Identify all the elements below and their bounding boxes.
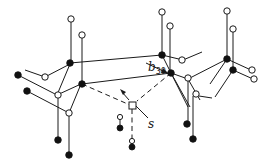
filled-atom	[67, 60, 74, 67]
filled-atom	[190, 136, 197, 143]
open-atom	[249, 67, 255, 73]
site-arrow	[120, 89, 129, 100]
open-atom	[66, 110, 72, 116]
open-atom	[179, 57, 185, 63]
filled-atom	[184, 121, 191, 128]
filled-atom	[66, 152, 73, 159]
filled-atom	[117, 125, 123, 131]
filled-atom	[129, 144, 135, 150]
filled-atom	[55, 137, 62, 144]
filled-atom	[79, 81, 86, 88]
filled-atom	[15, 72, 22, 79]
filled-atoms	[15, 52, 237, 159]
open-atom	[230, 26, 236, 32]
open-atom	[117, 114, 122, 119]
filled-atom	[24, 88, 31, 95]
open-atom	[224, 8, 230, 14]
open-atom	[185, 75, 191, 81]
site-s-square	[129, 102, 136, 109]
open-atom	[159, 9, 165, 15]
open-atom	[251, 76, 257, 82]
open-atom	[55, 92, 61, 98]
site-dashed-bonds	[82, 73, 171, 146]
filled-atom	[159, 52, 166, 59]
open-atom	[129, 138, 134, 143]
filled-atom	[224, 56, 231, 63]
open-atom	[42, 74, 48, 80]
open-atom	[68, 16, 74, 22]
filled-atom	[168, 70, 175, 77]
site-label-s: s	[148, 117, 154, 131]
open-atom	[167, 23, 173, 29]
bond-label-b: b30	[148, 60, 166, 76]
right-unit	[199, 11, 253, 98]
crystal-structure-diagram: b30 s	[0, 0, 270, 162]
open-atom	[79, 32, 85, 38]
filled-atom	[230, 67, 237, 74]
open-atom	[193, 91, 199, 97]
left-unit	[18, 20, 82, 153]
